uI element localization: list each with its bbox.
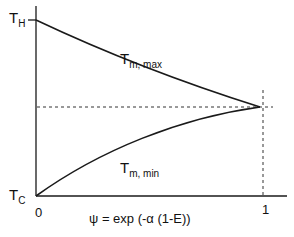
y-label-tc: TC [9, 186, 25, 203]
curve-tm-min [36, 107, 260, 196]
curve-label-tm-max-main: T [120, 50, 129, 67]
y-label-tc-sub: C [18, 195, 25, 206]
x-axis-label: ψ = exp (-α (1-E)) [89, 211, 191, 226]
chart-canvas [0, 0, 294, 237]
curve-label-tm-min-sub: m, min [129, 168, 159, 179]
x-tick-1: 1 [262, 202, 269, 217]
x-tick-0: 0 [35, 205, 42, 220]
y-label-th-sub: H [18, 18, 25, 29]
curve-label-tm-min: Tm, min [120, 159, 159, 176]
y-label-th-main: T [9, 9, 18, 26]
y-label-tc-main: T [9, 186, 18, 203]
curve-label-tm-max: Tm, max [120, 50, 162, 67]
curve-label-tm-min-main: T [120, 159, 129, 176]
curve-label-tm-max-sub: m, max [129, 59, 162, 70]
y-label-th: TH [9, 9, 25, 26]
